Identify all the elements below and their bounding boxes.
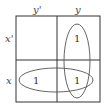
map-border (16, 16, 100, 102)
group-ellipse-row-x (19, 68, 93, 92)
row-label-x: x (6, 75, 12, 86)
col-label-y-prime: y' (32, 4, 41, 15)
cell-x-prime-y: 1 (74, 33, 80, 44)
cell-x-y-prime: 1 (33, 75, 39, 86)
cell-x-y: 1 (74, 75, 80, 86)
row-label-x-prime: x' (5, 33, 13, 44)
karnaugh-map: y' y x' x 1 1 1 (0, 0, 106, 111)
col-label-y: y (74, 4, 81, 15)
